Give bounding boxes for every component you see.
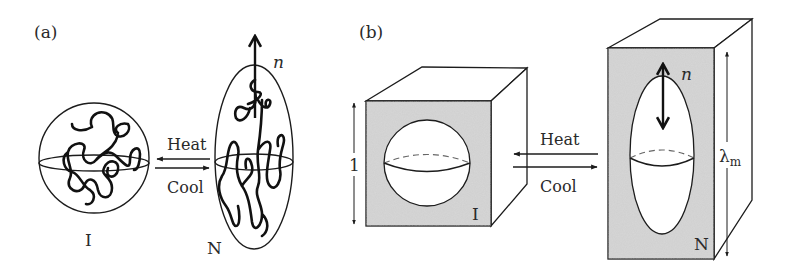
- isotropic-state-label: I: [85, 230, 92, 250]
- nematic-box: [608, 19, 752, 259]
- isotropic-coil-sphere: [39, 103, 149, 213]
- heat-label-a: Heat: [167, 135, 207, 154]
- unit-length-label: 1: [349, 155, 360, 175]
- director-label-a: n: [273, 52, 284, 72]
- cool-label-b: Cool: [540, 177, 577, 196]
- panel-a: (a) I Heat Cool n N: [34, 22, 293, 258]
- heat-cool-arrows-a: Heat Cool: [155, 135, 210, 197]
- nematic-state-label-b: N: [694, 234, 709, 254]
- diagram-canvas: (a) I Heat Cool n N (b): [0, 0, 785, 272]
- director-label-b: n: [681, 64, 692, 84]
- panel-a-label: (a): [34, 22, 57, 42]
- cool-label-a: Cool: [167, 178, 204, 197]
- isotropic-state-label-b: I: [472, 204, 479, 224]
- panel-b: (b) I 1 Heat Cool: [349, 19, 752, 259]
- isotropic-cube: [366, 67, 527, 226]
- figure: (a) I Heat Cool n N (b): [0, 0, 785, 272]
- heat-label-b: Heat: [540, 130, 580, 149]
- dimension-unit: 1: [349, 103, 360, 224]
- nematic-state-label: N: [207, 238, 222, 258]
- panel-b-label: (b): [359, 22, 383, 42]
